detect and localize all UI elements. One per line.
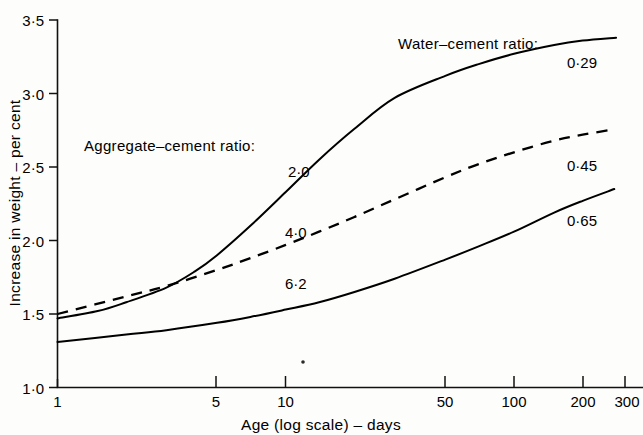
series-label-wc-0-29: 0·29 bbox=[567, 54, 597, 71]
x-tick-label-50: 50 bbox=[437, 393, 454, 410]
series-line-0-29 bbox=[58, 38, 617, 319]
y-axis-title: Increase in weight – per cent bbox=[6, 99, 23, 306]
series-line-0-65 bbox=[58, 189, 615, 342]
y-tick-label-3-0: 3·0 bbox=[22, 86, 44, 103]
x-tick-label-200: 200 bbox=[570, 393, 595, 410]
y-tick-label-2-0: 2·0 bbox=[22, 233, 44, 250]
water-cement-ratio-title: Water–cement ratio: bbox=[398, 35, 538, 52]
series-label-wc-0-45: 0·45 bbox=[567, 157, 597, 174]
y-tick-label-1-0: 1·0 bbox=[22, 380, 44, 397]
series-label-agg-6-2: 6·2 bbox=[285, 275, 307, 292]
scan-speck bbox=[301, 360, 305, 364]
chart-canvas: 3·5 3·0 2·5 2·0 1·5 1·0 1 5 10 50 100 20… bbox=[0, 0, 643, 435]
chart-figure: 3·5 3·0 2·5 2·0 1·5 1·0 1 5 10 50 100 20… bbox=[0, 0, 643, 435]
x-tick-label-5: 5 bbox=[212, 393, 220, 410]
aggregate-cement-ratio-title: Aggregate–cement ratio: bbox=[84, 137, 255, 154]
y-tick-label-2-5: 2·5 bbox=[22, 159, 44, 176]
x-tick-label-1: 1 bbox=[53, 393, 61, 410]
x-tick-label-10: 10 bbox=[277, 393, 294, 410]
x-tick-label-300: 300 bbox=[614, 393, 639, 410]
y-tick-label-3-5: 3·5 bbox=[22, 12, 44, 29]
series-label-wc-0-65: 0·65 bbox=[567, 212, 597, 229]
series-line-0-45 bbox=[58, 130, 609, 314]
x-axis-ticks bbox=[58, 376, 626, 388]
x-tick-label-100: 100 bbox=[501, 393, 526, 410]
y-axis-ticks bbox=[49, 20, 58, 388]
y-tick-label-1-5: 1·5 bbox=[22, 306, 44, 323]
x-axis-title: Age (log scale) – days bbox=[241, 416, 401, 433]
series-label-agg-2-0: 2·0 bbox=[288, 163, 310, 180]
series-label-agg-4-0: 4·0 bbox=[285, 224, 307, 241]
